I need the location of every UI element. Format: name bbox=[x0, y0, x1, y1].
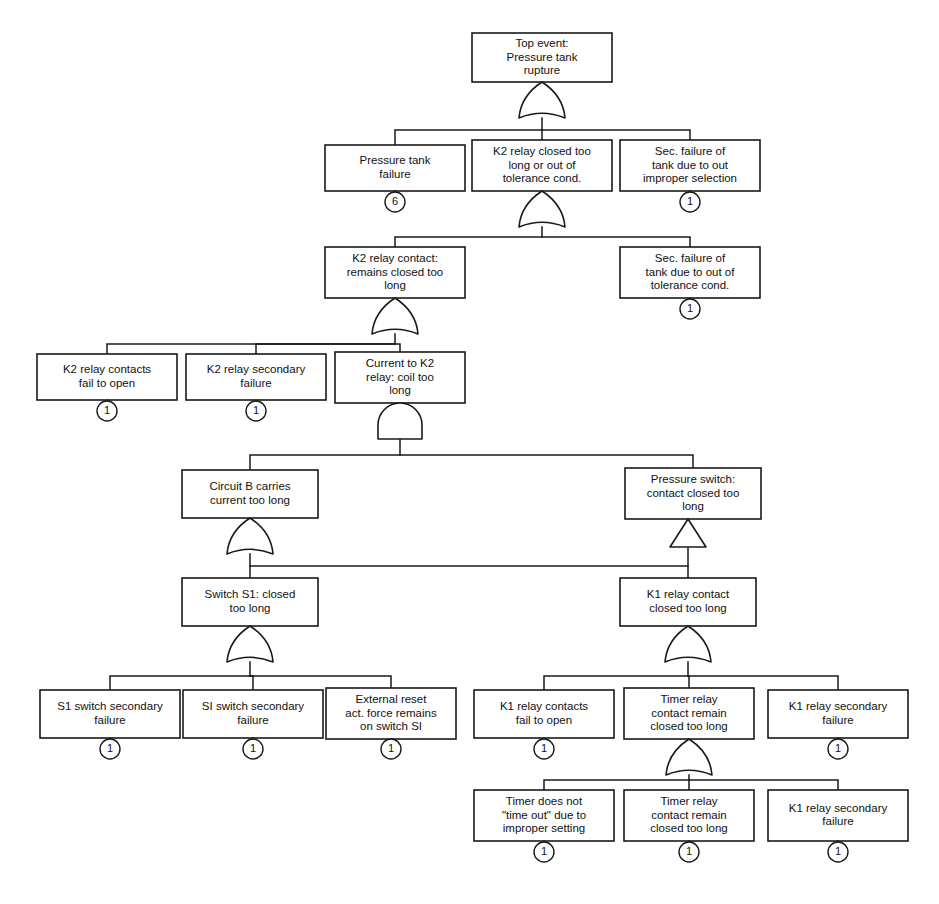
or-gate-icon-k2-relay-contact-remains-closed[interactable] bbox=[372, 298, 418, 334]
basic-event-value-si-switch-secondary-failure: 1 bbox=[250, 742, 256, 754]
timer-relay-branch-right bbox=[689, 780, 838, 790]
event-label-circuit-b-carries-current-too-long: Circuit B carriescurrent too long bbox=[209, 480, 290, 505]
switch-s1-branch-left bbox=[110, 662, 250, 690]
and-gate-branch-right bbox=[400, 455, 693, 468]
fault-tree-node-k2-relay-closed-too-long[interactable]: K2 relay closed toolong or out oftoleran… bbox=[472, 140, 612, 227]
fault-tree-node-si-switch-secondary-failure[interactable]: SI switch secondaryfailure1 bbox=[183, 690, 323, 759]
transfer-gate-icon-pressure-switch-contact-closed[interactable] bbox=[670, 519, 706, 547]
fault-tree-node-k2-relay-contact-remains-closed[interactable]: K2 relay contact:remains closed toolong bbox=[325, 247, 465, 334]
fault-tree-node-k1-relay-contact-closed-too-long[interactable]: K1 relay contactclosed too long bbox=[620, 578, 756, 662]
k2-closed-branch bbox=[395, 227, 542, 247]
basic-event-value-k1-relay-secondary-failure-1: 1 bbox=[835, 742, 841, 754]
basic-event-value-sec-failure-tank-improper-selection: 1 bbox=[687, 195, 693, 207]
basic-event-value-timer-does-not-time-out: 1 bbox=[541, 845, 547, 857]
basic-event-value-timer-relay-contact-remain-closed-2: 1 bbox=[686, 845, 692, 857]
fault-tree-node-k2-relay-contacts-fail-to-open[interactable]: K2 relay contactsfail to open1 bbox=[37, 354, 177, 421]
fault-tree-node-k1-relay-secondary-failure-2[interactable]: K1 relay secondaryfailure1 bbox=[768, 790, 908, 862]
k2-contact-branch-right bbox=[395, 344, 400, 352]
or-gate-icon-k1-relay-contact-closed-too-long[interactable] bbox=[665, 626, 711, 662]
k2-closed-branch-right bbox=[542, 237, 690, 247]
fault-tree-node-timer-relay-contact-remain-closed-1[interactable]: Timer relaycontact remainclosed too long bbox=[624, 688, 754, 775]
or-gate-icon-switch-s1-closed-too-long[interactable] bbox=[227, 626, 273, 662]
basic-event-value-sec-failure-tank-tolerance: 1 bbox=[687, 302, 693, 314]
fault-tree-node-circuit-b-carries-current-too-long[interactable]: Circuit B carriescurrent too long bbox=[182, 470, 318, 554]
event-label-sec-failure-tank-tolerance: Sec. failure oftank due to out oftoleran… bbox=[646, 252, 736, 290]
basic-event-value-pressure-tank-failure: 6 bbox=[392, 195, 398, 207]
basic-event-value-external-reset-act-force: 1 bbox=[388, 742, 394, 754]
fault-tree-node-current-to-k2-relay-coil-too-long[interactable]: Current to K2relay: coil toolong bbox=[335, 352, 465, 439]
or-gate-icon-circuit-b-carries-current-too-long[interactable] bbox=[227, 518, 273, 554]
event-label-k1-relay-contact-closed-too-long: K1 relay contactclosed too long bbox=[647, 588, 730, 613]
or-gate-icon-timer-relay-contact-remain-closed-1[interactable] bbox=[666, 739, 712, 775]
fault-tree-node-pressure-tank-failure[interactable]: Pressure tankfailure6 bbox=[325, 145, 465, 212]
fault-tree-node-s1-switch-secondary-failure[interactable]: S1 switch secondaryfailure1 bbox=[40, 690, 180, 759]
and-gate-icon-current-to-k2-relay-coil-too-long[interactable] bbox=[378, 403, 422, 439]
fault-tree-node-timer-relay-contact-remain-closed-2[interactable]: Timer relaycontact remainclosed too long… bbox=[624, 790, 754, 862]
event-label-timer-relay-contact-remain-closed-2: Timer relaycontact remainclosed too long bbox=[650, 795, 727, 833]
top-event-branch-right bbox=[542, 130, 690, 140]
fault-tree-node-pressure-switch-contact-closed[interactable]: Pressure switch:contact closed toolong bbox=[625, 468, 761, 547]
or-gate-icon-k2-relay-closed-too-long[interactable] bbox=[519, 191, 565, 227]
switch-s1-branch-mid bbox=[250, 676, 253, 690]
fault-tree-node-sec-failure-tank-improper-selection[interactable]: Sec. failure oftank due to outimproper s… bbox=[620, 140, 760, 212]
fault-tree-node-sec-failure-tank-tolerance[interactable]: Sec. failure oftank due to out oftoleran… bbox=[620, 247, 760, 319]
node-layer: Top event:Pressure tankrupturePressure t… bbox=[37, 33, 908, 862]
basic-event-value-k1-relay-secondary-failure-2: 1 bbox=[835, 845, 841, 857]
switch-s1-branch-right bbox=[250, 676, 391, 688]
fault-tree-node-external-reset-act-force[interactable]: External resetact. force remainson switc… bbox=[326, 688, 456, 759]
fault-tree-diagram: Top event:Pressure tankrupturePressure t… bbox=[0, 0, 939, 904]
fault-tree-node-top-event[interactable]: Top event:Pressure tankrupture bbox=[472, 33, 612, 118]
fault-tree-node-k2-relay-secondary-failure[interactable]: K2 relay secondaryfailure1 bbox=[186, 354, 326, 421]
basic-event-value-k2-relay-secondary-failure: 1 bbox=[253, 404, 259, 416]
and-gate-branch-left bbox=[250, 439, 400, 470]
or-gate-icon-top-event[interactable] bbox=[519, 82, 565, 118]
basic-event-value-s1-switch-secondary-failure: 1 bbox=[107, 742, 113, 754]
event-label-timer-relay-contact-remain-closed-1: Timer relaycontact remainclosed too long bbox=[650, 693, 727, 731]
basic-event-value-k2-relay-contacts-fail-to-open: 1 bbox=[104, 404, 110, 416]
fault-tree-node-timer-does-not-time-out[interactable]: Timer does not"time out" due toimproper … bbox=[474, 790, 614, 862]
k1-contact-branch-mid bbox=[688, 676, 689, 688]
timer-relay-branch-left bbox=[544, 775, 689, 790]
fault-tree-node-switch-s1-closed-too-long[interactable]: Switch S1: closedtoo long bbox=[182, 578, 318, 662]
fault-tree-node-k1-relay-contacts-fail-to-open[interactable]: K1 relay contactsfail to open1 bbox=[474, 690, 614, 759]
fault-tree-node-k1-relay-secondary-failure-1[interactable]: K1 relay secondaryfailure1 bbox=[768, 690, 908, 759]
k1-contact-branch-left bbox=[544, 662, 688, 690]
basic-event-value-k1-relay-contacts-fail-to-open: 1 bbox=[541, 742, 547, 754]
event-label-sec-failure-tank-improper-selection: Sec. failure oftank due to outimproper s… bbox=[643, 145, 737, 183]
event-label-timer-does-not-time-out: Timer does not"time out" due toimproper … bbox=[502, 795, 586, 833]
